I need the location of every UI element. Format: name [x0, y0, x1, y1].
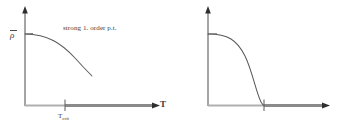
y-axis — [22, 6, 28, 106]
order-parameter-curve-second-order — [208, 34, 264, 106]
x-axis — [208, 103, 330, 109]
panel-first-order: strong 1. order p.t. ρ T Tcrit — [0, 0, 173, 129]
y-axis-label-first-order: ρ — [10, 30, 17, 40]
phase-transition-figure: strong 1. order p.t. ρ T Tcrit — [0, 0, 346, 129]
plot-title-first-order: strong 1. order p.t. — [63, 24, 117, 32]
order-parameter-curve-first-order — [25, 34, 92, 76]
x-axis-label-first-order: T — [160, 99, 166, 109]
y-axis — [205, 6, 211, 106]
second-order-plot-graphic — [173, 0, 346, 129]
panel-second-order: 2. order p.t. ρ T Tcrit — [173, 0, 346, 129]
tick-label-subscript: crit — [62, 116, 69, 121]
first-order-plot-graphic — [0, 0, 173, 129]
tick-label-tcrit-first-order: Tcrit — [58, 112, 69, 120]
x-axis — [25, 103, 160, 109]
y-axis-label-text: ρ — [10, 30, 14, 40]
